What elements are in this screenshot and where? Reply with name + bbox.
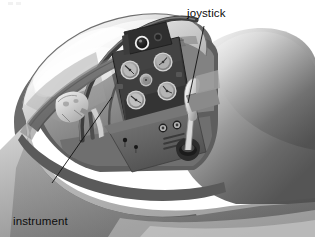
gauge-center	[140, 74, 153, 87]
label-instrument-panel: instrument panel	[13, 189, 68, 237]
console-knob-right	[173, 121, 182, 130]
console-knob-left	[159, 124, 168, 133]
aux-instrument-right	[176, 72, 182, 77]
gauge-upper-right	[153, 52, 172, 71]
gauge-upper-left	[120, 60, 139, 79]
gauge-lower-left	[126, 90, 145, 109]
illustration-canvas: joystick instrument panel	[0, 0, 315, 237]
label-instrument-panel-line1: instrument	[13, 215, 68, 228]
label-joystick: joystick	[187, 7, 226, 20]
aux-instrument-left	[116, 84, 123, 89]
gauge-lower-right	[157, 81, 176, 100]
